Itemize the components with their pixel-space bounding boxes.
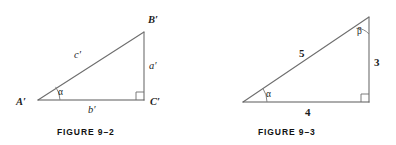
fig2-side-b-label: b′ (88, 104, 96, 115)
fig3-beta-label: β (357, 26, 362, 36)
fig2-vertex-c-label: C′ (150, 96, 160, 107)
fig3-side-hyp-label: 5 (299, 47, 305, 59)
fig2-caption: FIGURE 9–2 (57, 127, 115, 137)
fig2-hypotenuse-line (38, 32, 144, 100)
fig3-caption: FIGURE 9–3 (258, 127, 316, 137)
fig3-side-opp-label: 3 (374, 56, 380, 68)
figure-9-3: 5 3 4 α β FIGURE 9–3 (243, 17, 380, 137)
fig3-alpha-label: α (266, 89, 271, 99)
fig2-side-c-label: c′ (74, 49, 82, 60)
fig2-alpha-label: α (58, 87, 63, 97)
fig3-right-angle-marker (361, 94, 369, 102)
fig2-right-angle-marker (136, 92, 144, 100)
figure-9-2: A′ B′ C′ c′ a′ b′ α FIGURE 9–2 (15, 14, 160, 137)
fig3-side-adj-label: 4 (305, 106, 311, 118)
fig2-vertex-b-label: B′ (147, 14, 158, 25)
fig3-hypotenuse-line (243, 17, 369, 102)
fig2-vertex-a-label: A′ (15, 96, 26, 107)
figures-canvas: A′ B′ C′ c′ a′ b′ α FIGURE 9–2 (0, 0, 396, 145)
fig2-side-a-label: a′ (149, 60, 157, 71)
